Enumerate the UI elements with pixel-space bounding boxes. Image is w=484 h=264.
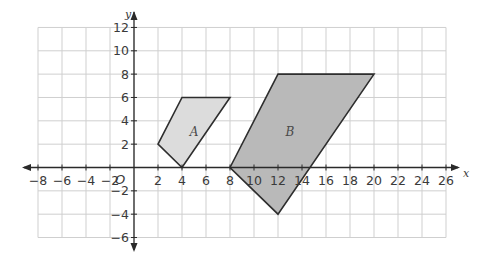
x-tick-label: 26: [438, 173, 454, 188]
x-tick-label: −8: [29, 173, 47, 188]
x-tick-label: 24: [414, 173, 430, 188]
y-axis-down-arrow-icon: [131, 243, 138, 252]
tick-labels: −8−6−4−22468101214161820222426−6−4−22468…: [29, 8, 470, 245]
x-axis-left-arrow-icon: [22, 164, 31, 171]
x-tick-label: 6: [202, 173, 210, 188]
x-tick-label: 10: [246, 173, 262, 188]
y-tick-label: 12: [113, 20, 129, 35]
shape-label-a: A: [189, 125, 199, 139]
x-tick-label: 4: [178, 173, 186, 188]
y-tick-label: 2: [121, 137, 129, 152]
y-axis-label: y: [124, 8, 132, 21]
x-tick-label: 22: [390, 173, 406, 188]
x-axis-right-arrow-icon: [451, 164, 460, 171]
x-tick-label: 20: [366, 173, 382, 188]
y-axis-up-arrow-icon: [131, 11, 138, 20]
x-tick-label: 12: [270, 173, 286, 188]
y-tick-label: 4: [121, 113, 129, 128]
x-tick-label: −6: [53, 173, 71, 188]
y-tick-label: 10: [113, 43, 129, 58]
origin-label: O: [115, 172, 125, 187]
x-tick-label: 16: [318, 173, 334, 188]
y-tick-label: 6: [121, 90, 129, 105]
x-tick-label: 14: [294, 173, 310, 188]
x-tick-label: 18: [342, 173, 358, 188]
shape-label-b: B: [285, 125, 295, 139]
axes: [22, 11, 460, 252]
x-axis-label: x: [463, 167, 470, 180]
x-tick-label: 8: [226, 173, 234, 188]
y-tick-label: −4: [111, 207, 129, 222]
coordinate-grid-diagram: −8−6−4−22468101214161820222426−6−4−22468…: [0, 0, 484, 264]
y-tick-label: −6: [111, 230, 129, 245]
grid-lines: [38, 27, 446, 237]
x-tick-label: 2: [154, 173, 162, 188]
x-tick-label: −4: [77, 173, 95, 188]
y-tick-label: 8: [121, 67, 129, 82]
